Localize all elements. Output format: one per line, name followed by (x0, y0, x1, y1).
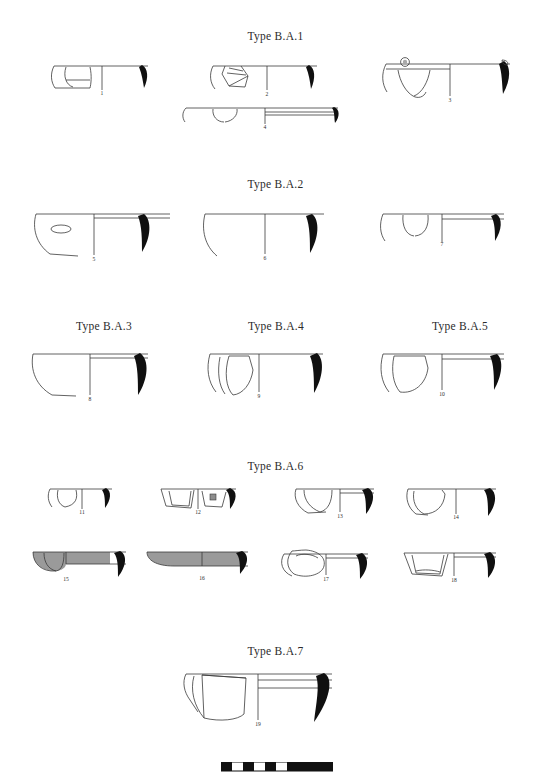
figure-drawing-2: 2 (205, 58, 335, 98)
figure-number-14: 14 (453, 514, 459, 520)
heading-ba6: Type B.A.6 (0, 460, 551, 472)
figure-number-16: 16 (199, 575, 205, 581)
figure-number-7: 7 (441, 241, 444, 247)
figure-drawing-18: 18 (398, 544, 513, 584)
figure-drawing-7: 7 (378, 208, 518, 253)
figure-drawing-11: 11 (46, 484, 126, 516)
heading-ba4: Type B.A.4 (196, 320, 356, 332)
figure-drawing-6: 6 (200, 208, 335, 263)
figure-drawing-17: 17 (276, 544, 386, 584)
figure-number-18: 18 (451, 577, 457, 583)
figure-drawing-5: 5 (30, 208, 160, 263)
figure-number-15: 15 (63, 576, 69, 582)
figure-number-11: 11 (79, 509, 84, 515)
figure-drawing-12: 12 (158, 484, 253, 516)
figure-number-6: 6 (264, 255, 267, 261)
figure-number-13: 13 (337, 513, 343, 519)
figure-number-12: 12 (195, 509, 201, 515)
figure-drawing-16: 16 (144, 548, 259, 584)
heading-ba2: Type B.A.2 (0, 178, 551, 190)
scale-bar (221, 762, 333, 776)
figure-drawing-3: 3 (378, 52, 523, 104)
figure-number-3: 3 (449, 97, 452, 103)
figure-number-17: 17 (323, 576, 329, 582)
figure-drawing-10: 10 (378, 348, 513, 403)
figure-number-1: 1 (101, 90, 104, 96)
figure-number-5: 5 (93, 256, 96, 262)
heading-ba1: Type B.A.1 (0, 30, 551, 42)
figure-drawing-4: 4 (180, 102, 345, 130)
figure-drawing-19: 19 (180, 668, 360, 730)
heading-ba5: Type B.A.5 (380, 320, 540, 332)
heading-ba3: Type B.A.3 (19, 320, 189, 332)
figure-drawing-1: 1 (44, 58, 160, 98)
figure-number-9: 9 (258, 393, 261, 399)
figure-drawing-8: 8 (30, 348, 155, 403)
figure-number-19: 19 (255, 721, 261, 727)
heading-ba7: Type B.A.7 (0, 645, 551, 657)
figure-drawing-14: 14 (404, 484, 514, 520)
figure-number-2: 2 (266, 91, 269, 97)
figure-drawing-9: 9 (205, 348, 330, 403)
figure-number-10: 10 (439, 391, 445, 397)
figure-number-4: 4 (264, 124, 267, 130)
figure-number-8: 8 (89, 396, 92, 402)
figure-drawing-15: 15 (30, 548, 140, 584)
figure-drawing-13: 13 (292, 484, 387, 520)
